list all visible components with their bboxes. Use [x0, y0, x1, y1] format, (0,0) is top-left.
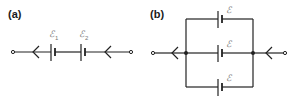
emf-2-subscript: 2	[85, 35, 89, 41]
emf-bottom-label: ℰ	[226, 73, 233, 83]
circuit-diagrams: (a) ℰ 1 ℰ 2 (b)	[0, 0, 293, 102]
panel-a: (a) ℰ 1 ℰ 2	[8, 8, 133, 61]
panel-b: (b) ℰ ℰ ℰ	[150, 5, 287, 96]
terminal-left-icon	[11, 50, 14, 53]
emf-middle-label: ℰ	[226, 39, 233, 49]
emf-top-label: ℰ	[226, 5, 233, 15]
battery-top-icon	[218, 11, 222, 28]
battery-bottom-icon	[218, 79, 222, 96]
terminal-right-icon	[129, 50, 132, 53]
emf-1-subscript: 1	[55, 35, 59, 41]
terminal-left-icon	[151, 51, 154, 54]
battery-1-icon	[51, 44, 55, 61]
panel-a-label: (a)	[8, 8, 22, 20]
panel-b-label: (b)	[150, 8, 164, 20]
terminal-right-icon	[283, 51, 286, 54]
battery-2-icon	[81, 44, 85, 61]
battery-middle-icon	[218, 45, 222, 62]
